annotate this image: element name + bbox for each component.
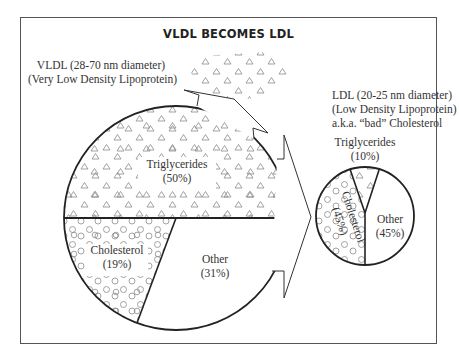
vldl-pie — [64, 106, 288, 330]
slice-percent: (50%) — [130, 171, 224, 185]
diagram-title: VLDL BECOMES LDL — [20, 27, 437, 41]
slice-name: Triglycerides — [130, 157, 224, 171]
ldl-label-line1: LDL (20-25 nm diameter) — [332, 88, 442, 102]
vldl-other-label: Other (31%) — [180, 252, 250, 280]
ldl-label-line2: (Low Density Lipoprotein) — [332, 102, 442, 116]
ldl-label-line3: a.k.a. “bad” Cholesterol — [332, 116, 442, 130]
vldl-cholesterol-label: Cholesterol (19%) — [82, 243, 152, 271]
slice-percent: (19%) — [82, 257, 152, 271]
slice-name: Triglycerides — [325, 135, 405, 149]
slice-name: Other — [180, 252, 250, 266]
vldl-label-line1: VLDL (28-70 nm diameter) — [28, 58, 174, 72]
ldl-other-label: Other (45%) — [366, 212, 414, 240]
vldl-label-line2: (Very Low Density Lipoprotein) — [28, 72, 174, 86]
slice-percent: (31%) — [180, 266, 250, 280]
slice-percent: (10%) — [325, 149, 405, 163]
vldl-label: VLDL (28-70 nm diameter) (Very Low Densi… — [28, 58, 174, 86]
diagram-graphics — [0, 0, 459, 361]
ldl-triglycerides-label: Triglycerides (10%) — [325, 135, 405, 163]
transform-arrow — [272, 135, 311, 298]
slice-percent: (45%) — [366, 226, 414, 240]
slice-name: Cholesterol — [82, 243, 152, 257]
slice-name: Other — [366, 212, 414, 226]
vldl-triglycerides-label: Triglycerides (50%) — [130, 157, 224, 185]
ldl-label: LDL (20-25 nm diameter) (Low Density Lip… — [332, 88, 442, 130]
